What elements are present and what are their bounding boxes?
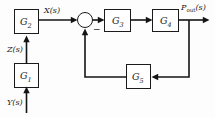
summing-junction-minus-sign: − (93, 25, 101, 34)
signal-label-Z: Z(s) (7, 46, 23, 54)
block-label-G5: G5 (132, 72, 144, 84)
block-label-G2: G2 (20, 17, 32, 29)
arrowhead-feedback-into-sum (82, 29, 88, 36)
arrowhead-into-G4 (146, 17, 153, 23)
signal-label-X: X(s) (44, 7, 60, 15)
summing-junction-circle (78, 13, 93, 28)
block-label-G4: G4 (160, 16, 172, 28)
arrowhead-output (203, 17, 210, 23)
signal-label-Y: Y(s) (7, 99, 23, 107)
arrowhead-into-G2 (23, 36, 29, 43)
diagram-canvas (0, 0, 215, 117)
arrowhead-into-G3 (98, 17, 105, 23)
arrowhead-into-sum (71, 17, 78, 23)
wire-feedback-to-sum (85, 33, 127, 77)
block-label-G3: G3 (112, 16, 124, 28)
block-diagram: G2 G1 G3 G4 G5 X(s) Z(s) Y(s) Pout(s) − (0, 0, 215, 117)
block-label-G1: G1 (20, 71, 32, 83)
arrowhead-into-G5 (152, 74, 159, 80)
signal-label-Pout: Pout(s) (181, 4, 206, 14)
